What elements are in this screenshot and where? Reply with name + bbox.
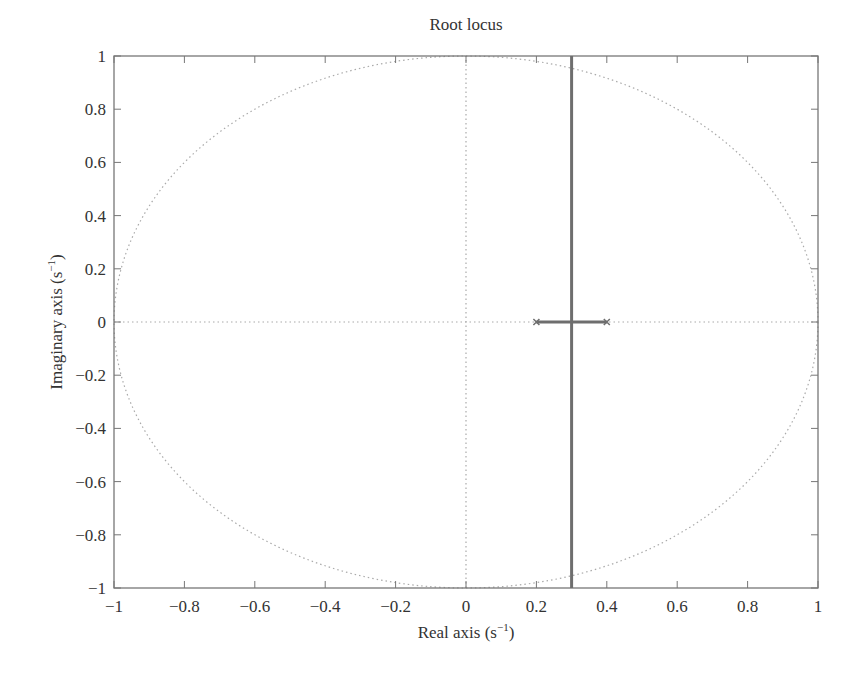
y-tick-label: −0.6 (75, 473, 106, 492)
chart-title: Root locus (429, 15, 502, 34)
x-tick-label: −0.2 (380, 597, 411, 616)
y-tick-label: −0.2 (75, 366, 106, 385)
y-axis-label-superscript: −1 (45, 260, 57, 272)
x-axis-label-superscript: −1 (497, 621, 509, 633)
x-axis-label: Real axis (s−1) (418, 621, 515, 642)
y-axis-label-base: Imaginary axis (s (47, 272, 66, 390)
y-tick-label: −0.4 (75, 419, 106, 438)
x-tick-label: 0 (462, 597, 471, 616)
root-locus-chart: −1−0.8−0.6−0.4−0.200.20.40.60.8110.80.60… (0, 0, 864, 682)
y-tick-label: 0.2 (85, 260, 106, 279)
y-tick-label: 1 (98, 47, 107, 66)
x-tick-label: 0.4 (596, 597, 618, 616)
x-tick-label: −0.4 (310, 597, 341, 616)
x-tick-label: −1 (105, 597, 123, 616)
x-tick-label: 0.8 (737, 597, 758, 616)
y-tick-label: 0.8 (85, 100, 106, 119)
x-tick-label: −0.8 (169, 597, 200, 616)
y-tick-label: −0.8 (75, 526, 106, 545)
y-tick-label: 0 (98, 313, 107, 332)
x-tick-label: 1 (814, 597, 823, 616)
y-axis-label: Imaginary axis (s−1) (45, 254, 66, 389)
y-tick-label: −1 (88, 579, 106, 598)
x-tick-label: 0.6 (667, 597, 688, 616)
y-tick-label: 0.6 (85, 153, 106, 172)
x-tick-label: 0.2 (526, 597, 547, 616)
y-tick-label: 0.4 (85, 207, 107, 226)
plot-area: −1−0.8−0.6−0.4−0.200.20.40.60.8110.80.60… (75, 47, 822, 616)
x-tick-label: −0.6 (239, 597, 270, 616)
x-axis-label-base: Real axis (s (418, 623, 497, 642)
